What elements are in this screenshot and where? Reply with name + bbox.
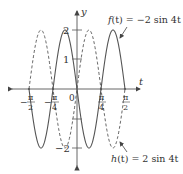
t-axis-label: t <box>139 76 144 87</box>
h-annotation-arrow <box>120 142 127 152</box>
y-label-1: 1 <box>63 54 69 65</box>
svg-text:π: π <box>52 93 57 102</box>
svg-text:4: 4 <box>52 103 57 112</box>
f-annotation-arrow <box>120 27 127 38</box>
x-tick-label-neg-pi-2: − π 2 <box>20 93 35 112</box>
y-label-2: 2 <box>63 25 69 36</box>
x-tick-label-pi-4: π 4 <box>98 93 106 112</box>
chart: y t 0 2 1 −2 − π 2 − π 4 π 4 π 2 f(t) = … <box>0 0 183 174</box>
f-annotation: f(t) = −2 sin 4t <box>107 14 181 25</box>
svg-text:−: − <box>44 97 52 107</box>
svg-text:4: 4 <box>99 103 104 112</box>
svg-text:π: π <box>123 93 128 102</box>
x-tick-label-pi-2: π 2 <box>122 93 130 112</box>
svg-text:π: π <box>99 93 104 102</box>
svg-text:π: π <box>28 93 33 102</box>
y-axis-label: y <box>80 6 87 17</box>
x-tick-label-neg-pi-4: − π 4 <box>44 93 59 112</box>
origin-label: 0 <box>69 93 75 103</box>
y-label-neg2: −2 <box>55 143 70 154</box>
h-annotation: h(t) = 2 sin 4t <box>111 153 179 164</box>
svg-text:−: − <box>20 97 28 107</box>
svg-text:2: 2 <box>28 103 33 112</box>
svg-text:2: 2 <box>123 103 128 112</box>
